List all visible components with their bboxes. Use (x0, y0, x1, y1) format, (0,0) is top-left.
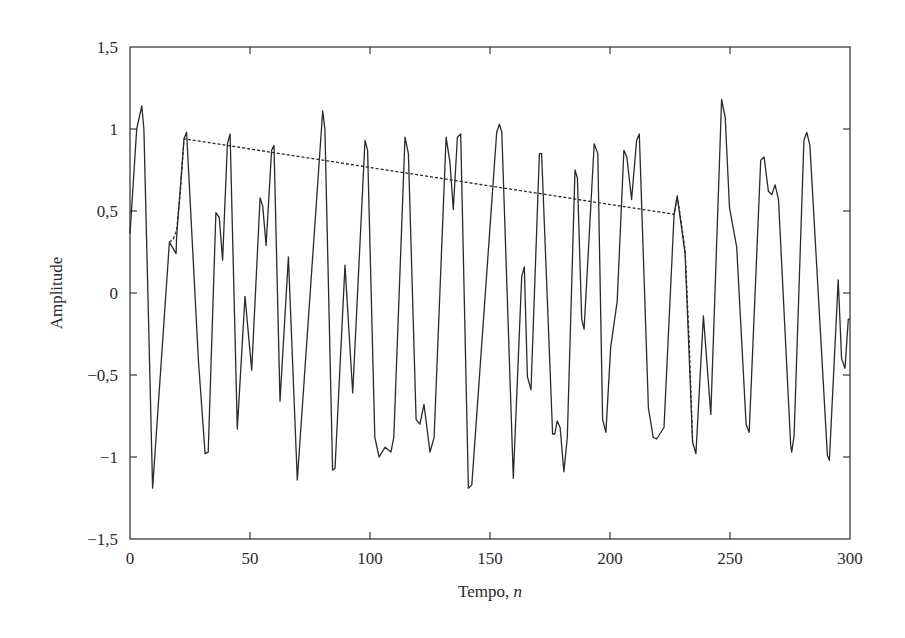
series-layer (130, 100, 850, 489)
x-axis-ticks: 050100150200250300 (126, 47, 863, 568)
y-tick-label: −0,5 (87, 366, 118, 385)
x-tick-label: 50 (242, 549, 259, 568)
y-tick-label: −1,5 (87, 530, 118, 549)
y-tick-label: 0 (110, 284, 119, 303)
x-tick-label: 0 (126, 549, 135, 568)
x-axis-label: Tempo, n (458, 582, 522, 601)
x-axis-label-variable: n (513, 582, 522, 601)
plot-area: 050100150200250300 1,510,50−0,5−1−1,5 (87, 38, 863, 568)
y-tick-label: 1,5 (97, 38, 118, 57)
line-chart: 050100150200250300 1,510,50−0,5−1−1,5 Am… (0, 0, 905, 638)
y-tick-label: −1 (100, 448, 118, 467)
y-axis-label: Amplitude (47, 257, 66, 330)
y-tick-label: 0,5 (97, 202, 118, 221)
x-tick-label: 100 (357, 549, 383, 568)
x-tick-label: 150 (477, 549, 503, 568)
signal-line (130, 100, 850, 489)
plot-frame (130, 47, 850, 539)
y-tick-label: 1 (110, 120, 119, 139)
x-tick-label: 250 (717, 549, 743, 568)
x-tick-label: 200 (597, 549, 623, 568)
x-tick-label: 300 (837, 549, 863, 568)
reconstruction-line (169, 139, 692, 442)
x-axis-label-text: Tempo, (458, 582, 513, 601)
